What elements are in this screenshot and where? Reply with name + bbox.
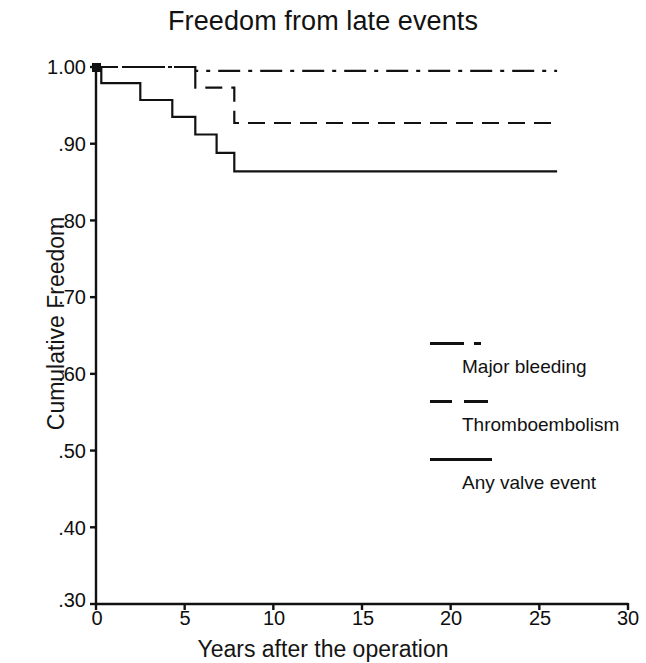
x-axis-title: Years after the operation — [0, 636, 646, 663]
legend-label-thromboembolism: Thromboembolism — [462, 414, 619, 436]
series-curve-any-valve-event — [96, 67, 557, 171]
x-tick-label-20: 20 — [421, 607, 481, 630]
legend-entry-thromboembolism: Thromboembolism — [430, 392, 646, 450]
y-tick-label-0-70: .70 — [20, 286, 86, 309]
chart-legend: Major bleeding Thromboembolism Any valve… — [430, 334, 646, 508]
y-tick-label-1-00: 1.00 — [20, 56, 86, 79]
x-tick-label-10: 10 — [244, 607, 304, 630]
legend-entry-major-bleeding: Major bleeding — [430, 334, 646, 392]
legend-label-any-valve-event: Any valve event — [462, 472, 596, 494]
origin-marker — [92, 63, 101, 72]
y-axis-tick-labels: 1.00 .90 .80 .70 .60 .50 .40 .30 — [12, 0, 86, 656]
legend-swatch-dashed-icon — [430, 400, 494, 403]
x-tick-label-30: 30 — [598, 607, 646, 630]
series-curves — [92, 63, 557, 171]
x-tick-label-25: 25 — [510, 607, 570, 630]
legend-entry-any-valve-event: Any valve event — [430, 450, 646, 508]
series-curve-major-bleeding — [96, 67, 557, 71]
x-tick-label-0: 0 — [67, 607, 127, 630]
legend-label-major-bleeding: Major bleeding — [462, 356, 587, 378]
chart-title: Freedom from late events — [0, 6, 646, 37]
y-tick-label-0-60: .60 — [20, 363, 86, 386]
y-tick-label-0-90: .90 — [20, 133, 86, 156]
y-tick-label-0-80: .80 — [20, 210, 86, 233]
legend-swatch-dash-dot-icon — [430, 342, 494, 345]
legend-swatch-solid-icon — [430, 458, 492, 461]
series-curve-thromboembolism — [96, 67, 557, 123]
y-tick-label-0-50: .50 — [20, 440, 86, 463]
x-tick-label-5: 5 — [155, 607, 215, 630]
y-tick-label-0-40: .40 — [20, 517, 86, 540]
x-tick-label-15: 15 — [333, 607, 393, 630]
